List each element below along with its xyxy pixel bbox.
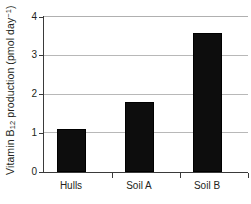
x-category-label-hulls: Hulls (36, 181, 106, 191)
y-axis-title-text: Vitamin B12 production (pmol day−1) (5, 5, 17, 175)
y-tick-0 (39, 172, 44, 173)
x-tick-1 (112, 173, 113, 178)
y-axis-title-superscript: −1 (4, 9, 13, 18)
y-tick-label-3: 3 (23, 50, 37, 60)
y-tick-label-1: 1 (23, 128, 37, 138)
x-category-label-soil-b: Soil B (172, 181, 242, 191)
y-axis-title-middle: production (pmol day (4, 18, 16, 121)
y-tick-3 (39, 55, 44, 56)
y-axis-title-subscript: 12 (9, 121, 18, 130)
x-tick-3 (248, 173, 249, 178)
bar-hulls (57, 129, 86, 172)
y-axis-title: Vitamin B12 production (pmol day−1) (0, 0, 22, 180)
y-axis-title-prefix: Vitamin B (4, 129, 16, 175)
bar-soil-b (193, 33, 222, 173)
y-tick-1 (39, 133, 44, 134)
y-tick-label-4: 4 (23, 12, 37, 22)
plot-area (44, 17, 248, 172)
chart-figure: Vitamin B12 production (pmol day−1) 0123… (0, 0, 251, 204)
y-axis-title-suffix: ) (4, 5, 16, 9)
gridline-y-4 (44, 16, 248, 17)
y-tick-label-2: 2 (23, 89, 37, 99)
bar-soil-a (125, 102, 154, 172)
x-category-label-soil-a: Soil A (104, 181, 174, 191)
y-tick-2 (39, 94, 44, 95)
x-tick-2 (180, 173, 181, 178)
x-axis-line (43, 172, 248, 173)
y-tick-4 (39, 17, 44, 18)
y-tick-label-0: 0 (23, 167, 37, 177)
